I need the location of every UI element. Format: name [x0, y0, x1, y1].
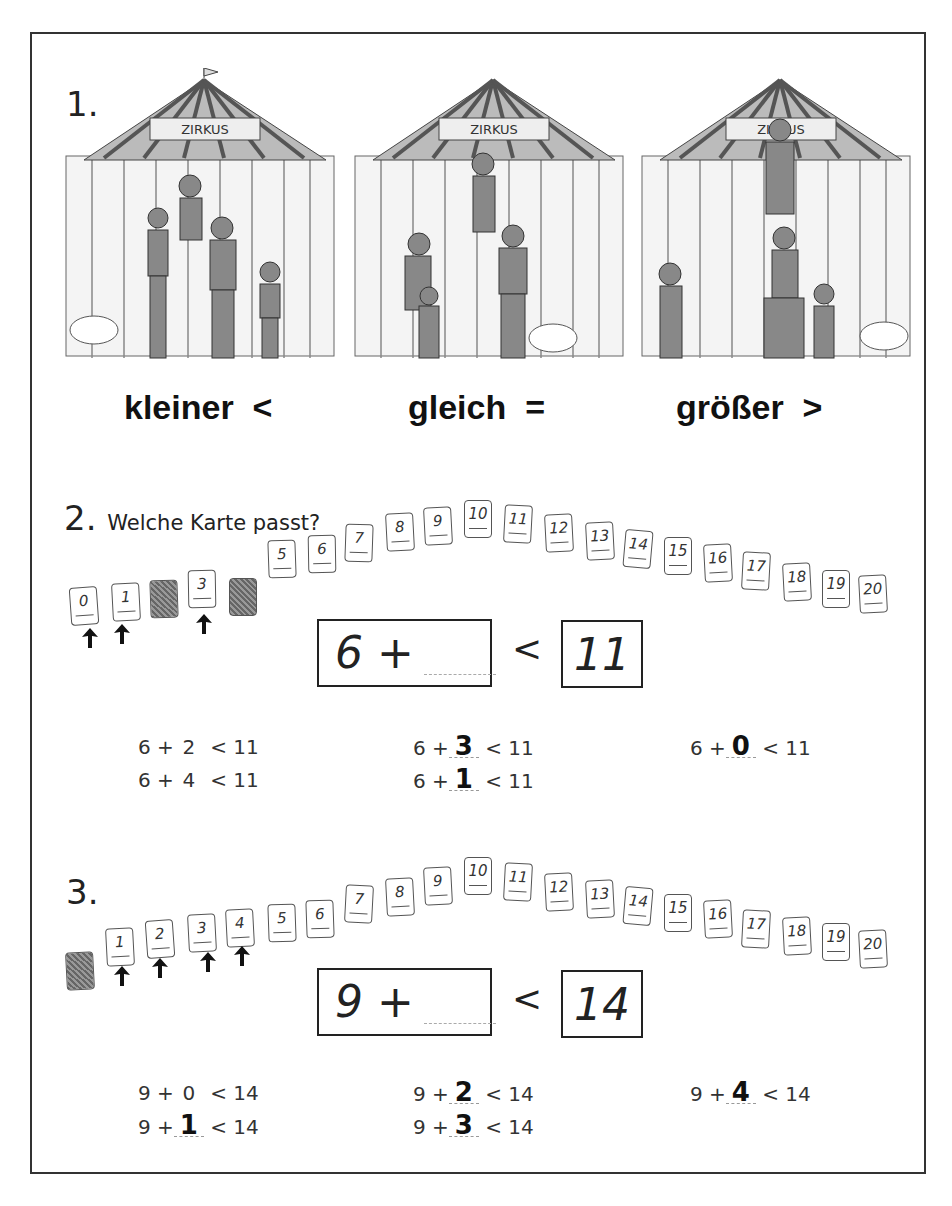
handwritten-answer[interactable]: 3	[449, 735, 479, 758]
number-card[interactable]: 5	[267, 904, 296, 943]
solution-equation: 9 +4 < 14	[690, 1081, 811, 1106]
number-card[interactable]: 20	[858, 574, 888, 613]
task-3-number: 3.	[66, 872, 98, 912]
equation-left-box-task-3: 9 +	[317, 968, 492, 1036]
number-card[interactable]: 19	[822, 570, 850, 608]
number-card[interactable]: 5	[267, 540, 296, 579]
solution-equation: 9 +1 < 14	[138, 1114, 259, 1139]
circus-tent-illustration: ZIRKUS	[640, 68, 920, 373]
answer-blank[interactable]	[424, 674, 496, 675]
arrow-up-icon	[82, 628, 98, 648]
number-card[interactable]: 17	[741, 551, 771, 590]
label-equal: gleich =	[408, 388, 545, 427]
solution-equation: 9 +2 < 14	[413, 1081, 534, 1106]
comparator-task-3: <	[512, 978, 542, 1019]
arrow-up-icon	[152, 958, 168, 978]
number-card[interactable]: 11	[503, 504, 533, 543]
number-card[interactable]: 8	[385, 877, 415, 916]
number-card[interactable]: 14	[622, 886, 653, 926]
number-card[interactable]: 18	[782, 916, 812, 955]
number-card[interactable]: 6	[308, 535, 337, 573]
number-card[interactable]: 2	[145, 919, 176, 959]
number-card[interactable]: 14	[622, 529, 653, 569]
handwritten-answer[interactable]: 2	[449, 1081, 479, 1104]
handwritten-answer[interactable]: 0	[726, 735, 756, 758]
solution-equation: 6 +1 < 11	[413, 768, 534, 793]
task-2-instruction: Welche Karte passt?	[107, 511, 320, 535]
comparator-task-2: <	[512, 628, 542, 669]
printed-value: 2	[174, 735, 204, 759]
number-card[interactable]: 10	[464, 857, 492, 895]
number-card[interactable]: 4	[225, 908, 255, 947]
arrow-up-icon	[114, 624, 130, 644]
number-card[interactable]: 13	[585, 879, 615, 918]
number-card[interactable]: 16	[703, 543, 733, 582]
number-card[interactable]: 1	[111, 582, 141, 621]
handwritten-answer[interactable]: 1	[449, 768, 479, 791]
number-card[interactable]: 9	[423, 866, 453, 905]
solution-equation: 9 +3 < 14	[413, 1114, 534, 1139]
svg-text:ZIRKUS: ZIRKUS	[470, 122, 518, 137]
equation-right-box-task-2: 11	[561, 620, 643, 688]
solution-equation: 6 +4 < 11	[138, 768, 259, 792]
number-card[interactable]: 6	[305, 900, 334, 939]
number-card[interactable]: 11	[503, 862, 533, 901]
number-card[interactable]: 0	[69, 586, 100, 626]
svg-text:ZIRKUS: ZIRKUS	[181, 122, 229, 137]
handwritten-answer[interactable]: 3	[449, 1114, 479, 1137]
solution-equation: 6 +3 < 11	[413, 735, 534, 760]
number-card[interactable]: 16	[703, 899, 733, 938]
number-card[interactable]: 3	[188, 570, 217, 608]
number-card[interactable]: 8	[385, 512, 415, 551]
answer-blank[interactable]	[424, 1023, 496, 1024]
arrow-up-icon	[234, 946, 250, 966]
label-greater: größer >	[676, 388, 822, 427]
number-card-covered[interactable]	[229, 578, 257, 616]
number-card[interactable]: 7	[344, 524, 373, 563]
handwritten-answer[interactable]: 1	[174, 1114, 204, 1137]
number-card[interactable]: 1	[105, 927, 135, 966]
circus-tent-illustration: ZIRKUS	[353, 68, 633, 373]
circus-scene-equal: ZIRKUS	[353, 68, 633, 373]
printed-value: 4	[174, 768, 204, 792]
number-card[interactable]: 15	[664, 894, 692, 932]
number-card[interactable]: 17	[741, 909, 771, 948]
solution-equation: 9 +0 < 14	[138, 1081, 259, 1105]
arrow-up-icon	[196, 614, 212, 634]
equation-right-box-task-3: 14	[561, 970, 643, 1038]
number-card[interactable]: 12	[544, 872, 574, 911]
solution-equation: 6 +2 < 11	[138, 735, 259, 759]
circus-scene-greater: ZIRKUS	[640, 68, 920, 373]
number-card-covered[interactable]	[149, 580, 178, 619]
number-card[interactable]: 15	[664, 537, 692, 575]
number-card[interactable]: 19	[822, 923, 850, 961]
number-card[interactable]: 12	[544, 513, 574, 552]
arrow-up-icon	[114, 966, 130, 986]
number-card-covered[interactable]	[65, 951, 95, 990]
handwritten-answer[interactable]: 4	[726, 1081, 756, 1104]
number-card[interactable]: 13	[585, 521, 615, 560]
number-card[interactable]: 3	[187, 913, 217, 952]
solution-equation: 6 +0 < 11	[690, 735, 811, 760]
number-card[interactable]: 7	[344, 884, 374, 923]
circus-tent-illustration: ZIRKUS	[64, 68, 344, 373]
number-card[interactable]: 20	[858, 929, 888, 968]
arrow-up-icon	[200, 952, 216, 972]
task-2-heading: 2. Welche Karte passt?	[64, 498, 320, 538]
printed-value: 0	[174, 1081, 204, 1105]
equation-left-box-task-2: 6 +	[317, 619, 492, 687]
number-card[interactable]: 9	[423, 506, 453, 545]
label-smaller: kleiner <	[124, 388, 272, 427]
number-card[interactable]: 10	[464, 500, 492, 538]
circus-scene-smaller: ZIRKUS	[64, 68, 344, 373]
number-card[interactable]: 18	[782, 562, 812, 601]
